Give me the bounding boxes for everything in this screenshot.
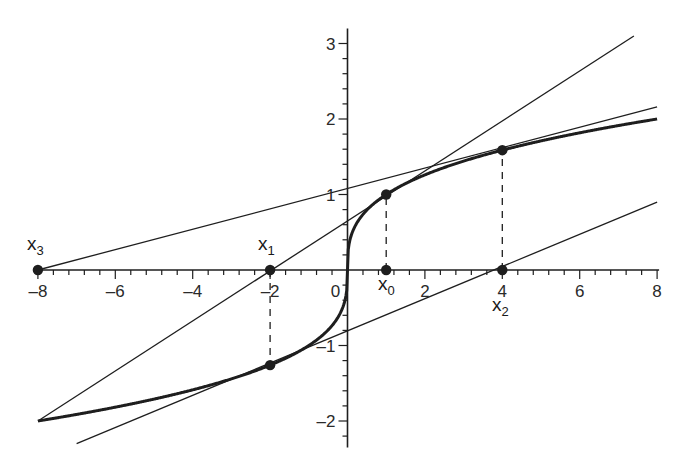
y-tick-label: –2 xyxy=(317,412,336,431)
x-tick-label: 8 xyxy=(652,282,661,301)
x-tick-label: 2 xyxy=(420,282,429,301)
y-tick-label: –1 xyxy=(317,337,336,356)
label-x0: x0 xyxy=(378,273,395,298)
x-tick-label: –4 xyxy=(183,282,202,301)
y-tick-label: 2 xyxy=(326,110,335,129)
chart: –8–6–4–202468 –2–1123 x3 x1 x0 x2 xyxy=(0,0,689,471)
y-tick-label: 3 xyxy=(326,35,335,54)
tangent-line xyxy=(77,202,658,444)
point-x3 xyxy=(33,265,43,275)
y-tick-label: 1 xyxy=(326,186,335,205)
point-x0 xyxy=(381,189,391,199)
x-tick-label: 0 xyxy=(331,282,340,301)
point-x1 xyxy=(265,265,275,275)
point-x1 xyxy=(265,360,275,370)
y-tick-labels: –2–1123 xyxy=(317,35,336,432)
x-tick-label: 6 xyxy=(575,282,584,301)
point-x2 xyxy=(497,145,507,155)
x-tick-label: –2 xyxy=(261,282,280,301)
axes xyxy=(38,28,659,447)
x-tick-label: –8 xyxy=(28,282,47,301)
label-x3: x3 xyxy=(27,233,44,258)
x-tick-label: –6 xyxy=(106,282,125,301)
tangent-line xyxy=(38,36,634,421)
point-x2 xyxy=(497,265,507,275)
dashed-guides xyxy=(270,150,502,365)
label-x1: x1 xyxy=(258,233,275,258)
